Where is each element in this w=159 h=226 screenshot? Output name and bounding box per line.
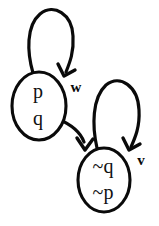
edge-label-v: v [137,152,145,168]
state-node-left[interactable]: p q [12,72,66,140]
transition-arrow-arrowhead [77,138,93,150]
self-loop-left [29,10,75,76]
state-node-right[interactable]: ~q ~p [78,148,130,212]
self-loop-right-path [94,81,139,148]
self-loop-left-path [29,10,73,73]
edge-label-w: w [71,79,82,95]
state-right-proposition-1: ~q [93,155,114,178]
state-left-proposition-1: p [33,80,43,103]
self-loop-right [94,81,140,150]
state-right-proposition-2: ~p [93,181,114,204]
state-diagram: p q ~q ~p w v [0,0,159,226]
diagram-canvas: p q ~q ~p w v [0,0,159,226]
state-left-proposition-2: q [33,107,43,130]
